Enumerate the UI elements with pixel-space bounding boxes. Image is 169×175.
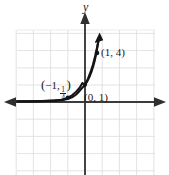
x-axis-right-arrow (154, 97, 166, 107)
x-axis-left-arrow (4, 97, 16, 107)
point-marker-zero (83, 83, 87, 87)
fraction-denominator: 4 (60, 93, 66, 102)
point-label-one: (1, 4) (101, 47, 125, 58)
paren-close: ) (67, 77, 71, 92)
fraction-one-fourth: 14 (60, 86, 66, 102)
point-marker-one (95, 51, 100, 56)
graph-canvas (0, 0, 169, 175)
y-axis-label: y (83, 1, 88, 13)
point-label-zero: (0, 1) (84, 92, 108, 103)
point-label-neg1-x: −1, (45, 79, 59, 91)
point-label-neg1: (−1,14) (41, 78, 71, 102)
exponential-function-graph: y (1, 4) (0, 1) (−1,14) (0, 0, 169, 175)
fraction-numerator: 1 (60, 86, 66, 94)
